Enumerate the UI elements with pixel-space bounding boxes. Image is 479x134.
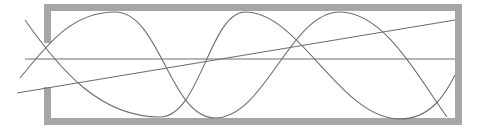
wave-b xyxy=(25,12,455,119)
straight-diagonal xyxy=(17,20,455,93)
diagram-canvas xyxy=(0,0,479,134)
curves xyxy=(17,12,455,119)
frame-top xyxy=(44,4,462,11)
frame-left-lower xyxy=(44,87,51,125)
frame-left-upper xyxy=(44,4,51,43)
frame xyxy=(44,4,462,125)
wave-a xyxy=(20,12,447,118)
frame-right xyxy=(455,4,462,125)
